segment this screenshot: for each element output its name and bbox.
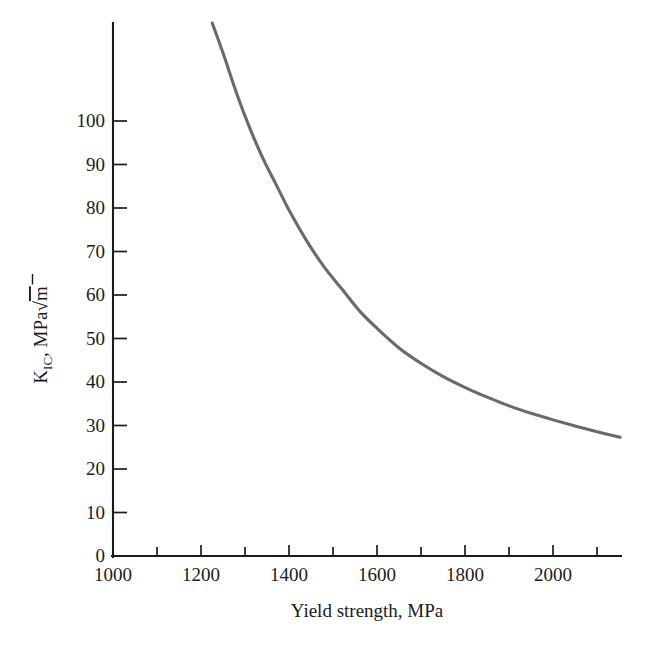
x-tick-label-1000: 1000: [94, 564, 132, 585]
x-axis-title: Yield strength, MPa: [291, 600, 444, 621]
chart-figure: 0 10 20 30 40 50 60 70 80 90 100: [0, 0, 651, 649]
y-tick-label-0: 0: [96, 545, 106, 566]
x-tick-label-1600: 1600: [358, 564, 396, 585]
x-tick-label-1800: 1800: [446, 564, 484, 585]
y-tick-label-30: 30: [86, 415, 105, 436]
y-axis-title-radical: √: [30, 301, 51, 312]
y-tick-label-50: 50: [86, 328, 105, 349]
x-tick-label-1400: 1400: [270, 564, 308, 585]
x-tick-label-2000: 2000: [534, 564, 572, 585]
y-tick-label-80: 80: [86, 197, 105, 218]
y-axis-title-radicand: m: [30, 286, 51, 301]
y-tick-label-20: 20: [86, 458, 105, 479]
y-axis-title-base: K: [30, 370, 51, 384]
chart-svg: 0 10 20 30 40 50 60 70 80 90 100: [0, 0, 651, 649]
y-tick-label-40: 40: [86, 371, 105, 392]
x-tick-label-1200: 1200: [182, 564, 220, 585]
y-axis-title-subscript: IC: [40, 357, 55, 370]
y-tick-label-10: 10: [86, 502, 105, 523]
y-tick-label-100: 100: [77, 110, 106, 131]
y-tick-label-60: 60: [86, 284, 105, 305]
y-tick-label-70: 70: [86, 241, 105, 262]
y-tick-label-90: 90: [86, 154, 105, 175]
y-axis-title-unit: , MPa: [30, 311, 51, 357]
